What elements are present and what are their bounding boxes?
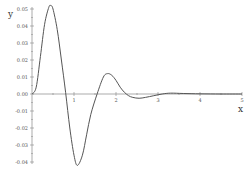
y-ticks: 0.050.040.030.020.010.00-0.01-0.02-0.03-… xyxy=(15,6,34,165)
y-tick-label: 0.05 xyxy=(17,6,28,12)
x-tick-label: 5 xyxy=(240,97,243,103)
y-tick-label: 0.01 xyxy=(17,74,28,80)
x-axis-label: x xyxy=(238,104,243,114)
x-tick-label: 3 xyxy=(156,97,159,103)
x-tick-label: 2 xyxy=(114,97,117,103)
y-tick-label: -0.03 xyxy=(15,142,28,148)
y-tick-label: -0.01 xyxy=(15,108,28,114)
y-tick-label: 0.03 xyxy=(17,40,28,46)
line-chart: 12345 0.050.040.030.020.010.00-0.01-0.02… xyxy=(0,0,250,173)
x-tick-label: 1 xyxy=(72,97,75,103)
y-tick-label: 0.02 xyxy=(17,57,28,63)
x-tick-label: 4 xyxy=(198,97,201,103)
y-tick-label: -0.02 xyxy=(15,125,28,131)
y-tick-label: 0.04 xyxy=(17,23,28,29)
y-tick-label: 0.00 xyxy=(17,91,28,97)
y-axis-label: y xyxy=(7,9,14,19)
y-tick-label: -0.04 xyxy=(15,159,28,165)
data-line xyxy=(32,5,242,165)
